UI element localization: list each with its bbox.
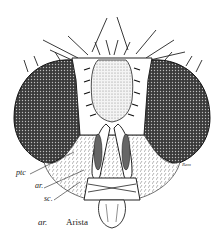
- label-ptc: ptc: [16, 169, 26, 177]
- artist-signature: Rem: [181, 162, 191, 167]
- figure-caption: ar. Arista: [0, 216, 224, 230]
- caption-term: Arista: [66, 217, 88, 227]
- label-sc: sc.: [44, 195, 53, 203]
- facial-plate: [84, 178, 140, 200]
- insect-head-illustration: Rem: [0, 0, 224, 239]
- right-compound-eye: [144, 60, 210, 164]
- left-compound-eye: [14, 60, 80, 164]
- label-ar: ar.: [35, 182, 43, 190]
- frontal-vitta: [91, 60, 133, 122]
- caption-abbreviation: ar.: [38, 217, 47, 227]
